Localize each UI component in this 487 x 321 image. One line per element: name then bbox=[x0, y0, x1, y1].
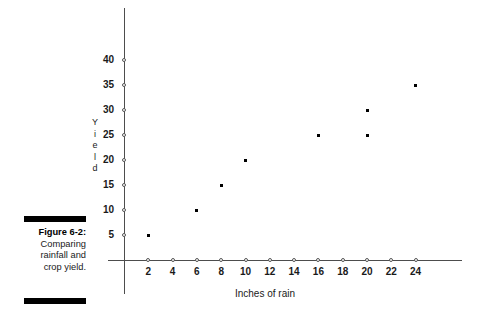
y-tick-label: 25 bbox=[92, 129, 114, 140]
data-point bbox=[366, 109, 369, 112]
data-point bbox=[147, 234, 150, 237]
y-tick-label: 35 bbox=[92, 79, 114, 90]
y-tick-marker bbox=[122, 58, 126, 62]
x-tick-label: 12 bbox=[259, 266, 281, 277]
y-tick-label: 15 bbox=[92, 179, 114, 190]
data-point bbox=[317, 134, 320, 137]
x-tick-marker bbox=[244, 258, 248, 262]
y-axis-title-char-2: e bbox=[89, 140, 101, 152]
x-tick-marker bbox=[268, 258, 272, 262]
y-tick-label: 30 bbox=[92, 104, 114, 115]
y-tick-label: 40 bbox=[92, 54, 114, 65]
data-point bbox=[244, 159, 247, 162]
x-tick-marker bbox=[389, 258, 393, 262]
x-tick-label: 6 bbox=[186, 266, 208, 277]
y-tick-marker bbox=[122, 83, 126, 87]
y-axis-title: Y i e l d bbox=[89, 117, 101, 175]
y-tick-marker bbox=[122, 108, 126, 112]
x-tick-marker bbox=[365, 258, 369, 262]
y-tick-marker bbox=[122, 208, 126, 212]
x-tick-label: 18 bbox=[332, 266, 354, 277]
x-tick-marker bbox=[316, 258, 320, 262]
x-tick-marker bbox=[171, 258, 175, 262]
y-axis-title-char-0: Y bbox=[89, 117, 101, 129]
x-tick-label: 10 bbox=[235, 266, 257, 277]
figure-page: Figure 6-2: Comparing rainfall and crop … bbox=[0, 0, 487, 321]
x-tick-label: 20 bbox=[356, 266, 378, 277]
x-tick-marker bbox=[341, 258, 345, 262]
data-point bbox=[366, 134, 369, 137]
x-tick-label: 16 bbox=[307, 266, 329, 277]
x-tick-label: 4 bbox=[162, 266, 184, 277]
y-axis-line bbox=[124, 8, 125, 294]
x-tick-label: 24 bbox=[405, 266, 427, 277]
x-tick-marker bbox=[292, 258, 296, 262]
x-tick-label: 22 bbox=[380, 266, 402, 277]
x-tick-marker bbox=[146, 258, 150, 262]
x-tick-label: 2 bbox=[137, 266, 159, 277]
x-tick-label: 14 bbox=[283, 266, 305, 277]
data-point bbox=[414, 84, 417, 87]
x-tick-marker bbox=[219, 258, 223, 262]
x-tick-label: 8 bbox=[210, 266, 232, 277]
y-tick-label: 10 bbox=[92, 204, 114, 215]
data-point bbox=[220, 184, 223, 187]
x-tick-marker bbox=[414, 258, 418, 262]
scatter-plot: Y i e l d Inches of rain 510152025303540… bbox=[0, 0, 487, 321]
y-tick-label: 5 bbox=[92, 229, 114, 240]
y-tick-label: 20 bbox=[92, 154, 114, 165]
y-tick-marker bbox=[122, 233, 126, 237]
data-point bbox=[195, 209, 198, 212]
y-tick-marker bbox=[122, 183, 126, 187]
x-axis-title: Inches of rain bbox=[190, 288, 340, 299]
y-tick-marker bbox=[122, 158, 126, 162]
y-tick-marker bbox=[122, 133, 126, 137]
x-tick-marker bbox=[195, 258, 199, 262]
x-axis-line bbox=[108, 260, 462, 261]
